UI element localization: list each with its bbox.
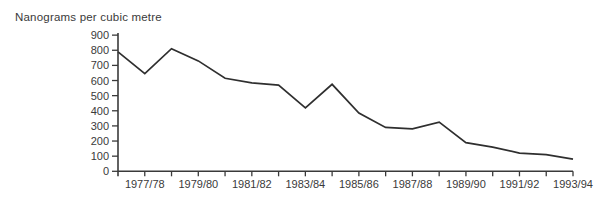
y-tick-label: 300 — [91, 120, 109, 132]
lead-concentration-line-chart: Nanograms per cubic metre 01002003004005… — [0, 0, 611, 203]
y-tick-label: 500 — [91, 90, 109, 102]
x-tick-label: 1979/80 — [178, 178, 218, 190]
x-tick-label: 1983/84 — [285, 178, 325, 190]
y-tick-label: 800 — [91, 44, 109, 56]
y-tick-label: 0 — [103, 165, 109, 177]
x-tick-label: 1985/86 — [339, 178, 379, 190]
y-tick-label: 200 — [91, 135, 109, 147]
x-tick-label: 1977/78 — [125, 178, 165, 190]
x-tick-label: 1987/88 — [393, 178, 433, 190]
x-tick-label: 1989/90 — [446, 178, 486, 190]
y-tick-label: 700 — [91, 59, 109, 71]
y-tick-label: 400 — [91, 105, 109, 117]
line-chart-canvas: 01002003004005006007008009001977/781979/… — [0, 0, 611, 203]
x-tick-label: 1981/82 — [232, 178, 272, 190]
y-tick-label: 600 — [91, 75, 109, 87]
y-tick-label: 100 — [91, 150, 109, 162]
y-tick-label: 900 — [91, 29, 109, 41]
x-tick-label: 1993/94 — [553, 178, 593, 190]
data-line-series — [118, 49, 573, 160]
x-tick-label: 1991/92 — [500, 178, 540, 190]
